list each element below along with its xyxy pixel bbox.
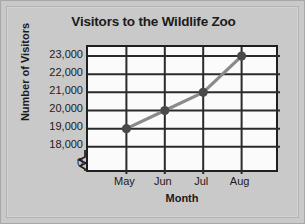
plot-svg: May: 19,000Jun: 20,000Jul: 21,000Aug: 23…: [88, 47, 280, 174]
x-axis-title: Month: [86, 192, 278, 204]
data-point-marker: Aug: 23,000: [237, 51, 246, 60]
x-tick-label: May: [102, 175, 146, 187]
plot-area: May: 19,000Jun: 20,000Jul: 21,000Aug: 23…: [86, 45, 278, 172]
y-tick-label: 21,000: [29, 85, 83, 96]
x-tick-label: Jun: [141, 175, 185, 187]
y-axis-break-icon: [75, 149, 91, 171]
chart-title: Visitors to the Wildlife Zoo: [1, 14, 305, 29]
y-tick-label: 23,000: [29, 49, 83, 60]
data-point-marker: Jul: 21,000: [199, 88, 208, 97]
y-tick-label: 19,000: [29, 121, 83, 132]
y-tick-label: 22,000: [29, 67, 83, 78]
y-tick-label: 20,000: [29, 103, 83, 114]
data-point-marker: May: 19,000: [122, 124, 131, 133]
x-axis-tick-labels: MayJunJulAug: [86, 175, 278, 191]
x-tick-label: Jul: [179, 175, 223, 187]
chart-card: Visitors to the Wildlife Zoo Number of V…: [0, 0, 305, 224]
data-point-marker: Jun: 20,000: [160, 106, 169, 115]
x-tick-label: Aug: [218, 175, 262, 187]
